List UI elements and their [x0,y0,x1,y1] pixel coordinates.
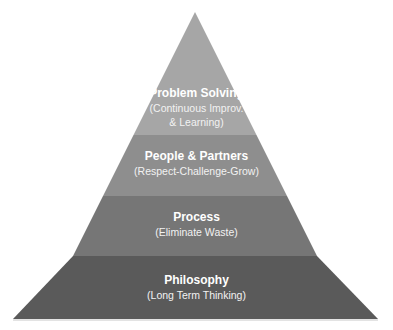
level-title: People & Partners [0,149,393,164]
level-title: Problem Solving [0,86,393,101]
level-people-partners-label: People & Partners (Respect-Challenge-Gro… [0,149,393,178]
level-problem-solving-label: Problem Solving (Continuous Improv. & Le… [0,86,393,129]
level-subtitle: (Eliminate Waste) [0,225,393,239]
level-philosophy-label: Philosophy (Long Term Thinking) [0,273,393,302]
level-subtitle: (Long Term Thinking) [0,288,393,302]
level-subtitle: & Learning) [0,115,393,129]
level-process-label: Process (Eliminate Waste) [0,210,393,239]
level-title: Philosophy [0,273,393,288]
level-subtitle: (Continuous Improv. [0,101,393,115]
level-subtitle: (Respect-Challenge-Grow) [0,164,393,178]
level-title: Process [0,210,393,225]
